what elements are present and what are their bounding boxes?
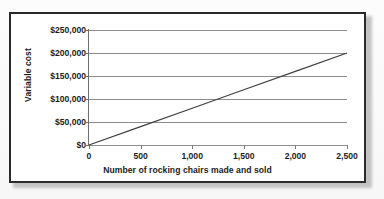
y-tick-label: $0 <box>25 140 86 150</box>
x-tick-mark <box>244 145 245 149</box>
chart-figure-frame: Variable cost $250,000 $200,000 $150,000… <box>9 12 366 183</box>
scanned-page: Variable cost $250,000 $200,000 $150,000… <box>0 0 384 199</box>
y-tick-label: $200,000 <box>25 48 86 58</box>
plot-area <box>89 30 347 145</box>
y-tick-label: $50,000 <box>25 117 86 127</box>
x-tick-mark <box>347 145 348 149</box>
x-tick-label: 2,500 <box>317 151 377 161</box>
x-tick-mark <box>192 145 193 149</box>
x-tick-mark <box>295 145 296 149</box>
y-tick-label: $150,000 <box>25 71 86 81</box>
variable-cost-line-chart: Variable cost $250,000 $200,000 $150,000… <box>11 14 364 181</box>
variable-cost-series-line <box>89 30 347 145</box>
y-tick-label: $250,000 <box>25 25 86 35</box>
x-axis-tick-label-group: 05001,0001,5002,0002,500 <box>89 151 347 163</box>
y-tick-label: $100,000 <box>25 94 86 104</box>
x-tick-mark <box>89 145 90 149</box>
x-axis-title: Number of rocking chairs made and sold <box>11 165 364 175</box>
x-tick-mark <box>141 145 142 149</box>
gridline <box>89 145 347 146</box>
